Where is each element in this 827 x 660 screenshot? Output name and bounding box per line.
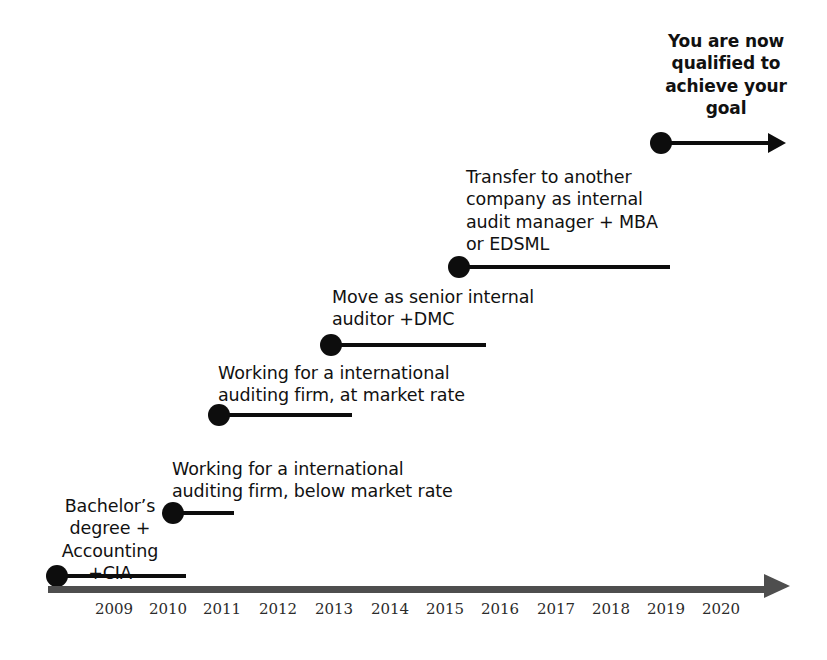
milestone-stem bbox=[226, 413, 352, 417]
milestone-stem bbox=[466, 265, 670, 269]
year-tick-2014: 2014 bbox=[371, 600, 409, 618]
milestone-label-senior-internal-auditor: Move as senior internal auditor +DMC bbox=[332, 286, 612, 331]
milestone-marker-senior-internal-auditor[interactable] bbox=[320, 334, 486, 356]
career-timeline-diagram: Bachelor’s degree + Accounting +CIAWorki… bbox=[0, 0, 827, 660]
milestone-arrowhead-icon bbox=[768, 133, 786, 153]
milestone-label-transfer-internal-audit-manager: Transfer to another company as internal … bbox=[466, 166, 706, 256]
milestone-marker-bachelors-degree[interactable] bbox=[46, 565, 186, 587]
year-tick-2019: 2019 bbox=[647, 600, 685, 618]
year-tick-2015: 2015 bbox=[426, 600, 464, 618]
milestone-label-intl-auditing-at-market: Working for a international auditing fir… bbox=[218, 362, 528, 407]
year-tick-2012: 2012 bbox=[259, 600, 297, 618]
milestone-marker-intl-auditing-at-market[interactable] bbox=[208, 404, 352, 426]
milestone-stem bbox=[668, 141, 768, 145]
milestone-stem bbox=[338, 343, 486, 347]
timeline-axis-line bbox=[48, 586, 764, 593]
year-tick-2020: 2020 bbox=[702, 600, 740, 618]
milestone-label-goal-qualified: You are now qualified to achieve your go… bbox=[650, 30, 802, 120]
year-tick-2011: 2011 bbox=[203, 600, 241, 618]
year-tick-2010: 2010 bbox=[149, 600, 187, 618]
year-tick-2017: 2017 bbox=[537, 600, 575, 618]
year-tick-2016: 2016 bbox=[481, 600, 519, 618]
milestone-marker-transfer-internal-audit-manager[interactable] bbox=[448, 256, 670, 278]
timeline-axis-arrowhead-icon bbox=[764, 574, 790, 598]
year-tick-2018: 2018 bbox=[592, 600, 630, 618]
milestone-stem bbox=[64, 574, 186, 578]
year-tick-2013: 2013 bbox=[315, 600, 353, 618]
milestone-stem bbox=[180, 511, 234, 515]
milestone-marker-intl-auditing-below-market[interactable] bbox=[162, 502, 234, 524]
year-tick-2009: 2009 bbox=[95, 600, 133, 618]
milestone-marker-goal-qualified[interactable] bbox=[650, 132, 786, 154]
milestone-label-intl-auditing-below-market: Working for a international auditing fir… bbox=[172, 458, 502, 503]
